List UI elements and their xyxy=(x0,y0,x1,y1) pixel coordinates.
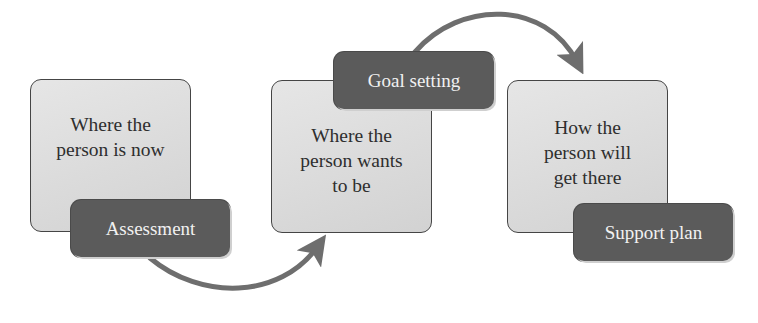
step-label-text: Goal setting xyxy=(368,70,460,92)
process-diagram: Where the person is now Assessment Where… xyxy=(0,0,758,323)
stage-box-text: Where the person wants to be xyxy=(300,123,402,198)
step-label-text: Support plan xyxy=(605,222,703,244)
stage-box-text: Where the person is now xyxy=(56,112,164,162)
step-label-text: Assessment xyxy=(106,218,196,240)
stage-box-text: How the person will get there xyxy=(544,115,631,190)
step-label-support-plan: Support plan xyxy=(574,204,733,261)
step-label-goal-setting: Goal setting xyxy=(334,52,494,109)
step-label-assessment: Assessment xyxy=(71,200,230,257)
